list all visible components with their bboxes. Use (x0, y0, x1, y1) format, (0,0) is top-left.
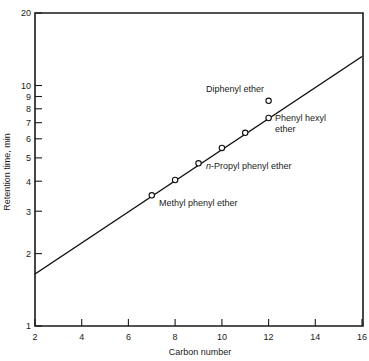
y-axis-ticks (35, 13, 42, 326)
y-axis-title: Retention time, min (2, 133, 12, 211)
y-tick-label-1: 1 (26, 321, 31, 331)
x-tick-label-8: 8 (173, 332, 178, 342)
methyl-phenyl-ether-label: Methyl phenyl ether (159, 198, 238, 208)
phenyl-hexyl-ether-label-line2: ether (275, 124, 296, 134)
x-tick-label-4: 4 (79, 332, 84, 342)
x-tick-label-12: 12 (264, 332, 274, 342)
data-point-c10[interactable] (219, 145, 224, 150)
data-point-diphenyl-ether[interactable] (266, 98, 271, 103)
x-tick-label-6: 6 (126, 332, 131, 342)
y-tick-label-20: 20 (21, 8, 31, 18)
y-tick-label-4: 4 (26, 177, 31, 187)
y-tick-label-6: 6 (26, 134, 31, 144)
n-propyl-rest: -Propyl phenyl ether (211, 161, 292, 171)
y-tick-label-9: 9 (26, 92, 31, 102)
diphenyl-ether-label: Diphenyl ether (206, 84, 264, 94)
y-tick-label-10: 10 (21, 81, 31, 91)
phenyl-hexyl-ether-label-line1: Phenyl hexyl (275, 113, 326, 123)
data-point-c8[interactable] (172, 177, 177, 182)
y-axis-tick-labels: 20 10 9 8 7 6 5 4 3 2 1 (21, 8, 31, 331)
y-tick-label-8: 8 (26, 104, 31, 114)
semilog-plot: 20 10 9 8 7 6 5 4 3 2 1 2 4 6 (0, 0, 369, 361)
x-axis-ticks (35, 319, 362, 326)
y-tick-label-5: 5 (26, 153, 31, 163)
chart-figure: 20 10 9 8 7 6 5 4 3 2 1 2 4 6 (0, 0, 369, 361)
data-markers (149, 98, 271, 198)
x-tick-label-10: 10 (217, 332, 227, 342)
data-point-c9[interactable] (196, 161, 201, 166)
x-tick-label-14: 14 (310, 332, 320, 342)
y-tick-label-2: 2 (26, 249, 31, 259)
data-point-c7[interactable] (149, 193, 154, 198)
x-tick-label-2: 2 (32, 332, 37, 342)
x-tick-label-16: 16 (357, 332, 367, 342)
x-axis-title: Carbon number (169, 347, 232, 357)
y-tick-label-3: 3 (26, 207, 31, 217)
data-point-c11[interactable] (243, 130, 248, 135)
y-tick-label-7: 7 (26, 118, 31, 128)
data-point-c12[interactable] (266, 115, 271, 120)
n-propyl-phenyl-ether-label: n-Propyl phenyl ether (206, 161, 292, 171)
plot-frame (35, 13, 363, 326)
x-axis-tick-labels: 2 4 6 8 10 12 14 16 (32, 332, 367, 342)
